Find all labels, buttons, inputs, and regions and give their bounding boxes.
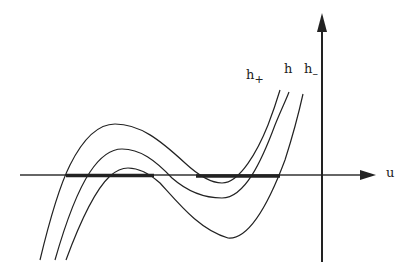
u-axis-arrow-icon [360, 170, 376, 180]
curve-label-h-plus: h+ [246, 68, 264, 81]
curve-label-base: h [284, 61, 292, 76]
diagram-canvas [0, 0, 408, 274]
u-axis-label: u [386, 166, 394, 179]
curve-label-subscript: + [254, 73, 263, 86]
vertical-axis-arrow-icon [317, 13, 327, 32]
curve-label-h: h [284, 62, 292, 75]
curve-label-subscript: – [312, 67, 318, 80]
curve-label-h-minus: h– [304, 62, 318, 75]
